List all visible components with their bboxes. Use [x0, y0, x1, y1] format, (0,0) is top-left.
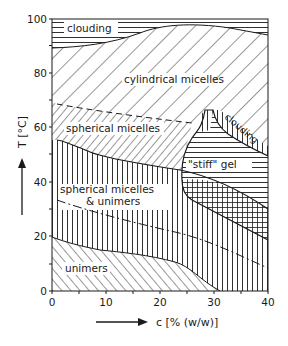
y-tick-0: 0: [40, 285, 47, 297]
label-spherical-micelles: spherical micelles: [66, 122, 160, 134]
y-tick-40: 40: [34, 176, 47, 188]
x-tick-20: 20: [153, 296, 166, 308]
x-tick-30: 30: [207, 296, 220, 308]
x-axis-arrow-icon: [96, 318, 148, 326]
label-cylindrical-micelles: cylindrical micelles: [124, 73, 224, 85]
y-axis-label: T [°C]: [16, 116, 29, 149]
label-unimers: unimers: [65, 262, 108, 274]
label-spherical-micelles-unimers-1: spherical micelles: [60, 183, 154, 195]
x-axis-label: c [% (w/w)]: [156, 316, 218, 329]
x-tick-10: 10: [99, 296, 112, 308]
y-axis-arrow-icon: [18, 158, 26, 215]
y-tick-100: 100: [27, 13, 47, 25]
y-tick-20: 20: [34, 230, 47, 242]
x-tick-0: 0: [49, 296, 56, 308]
label-clouding-top: clouding: [67, 22, 112, 34]
x-tick-40: 40: [261, 296, 274, 308]
phase-diagram: 100 80 60 40 20 0 0 10 20 30 40 c [% (w/…: [0, 0, 288, 346]
y-tick-80: 80: [34, 67, 47, 79]
label-stiff-gel: "stiff" gel: [188, 158, 237, 170]
y-tick-60: 60: [34, 121, 47, 133]
label-spherical-micelles-unimers-2: & unimers: [86, 195, 140, 207]
